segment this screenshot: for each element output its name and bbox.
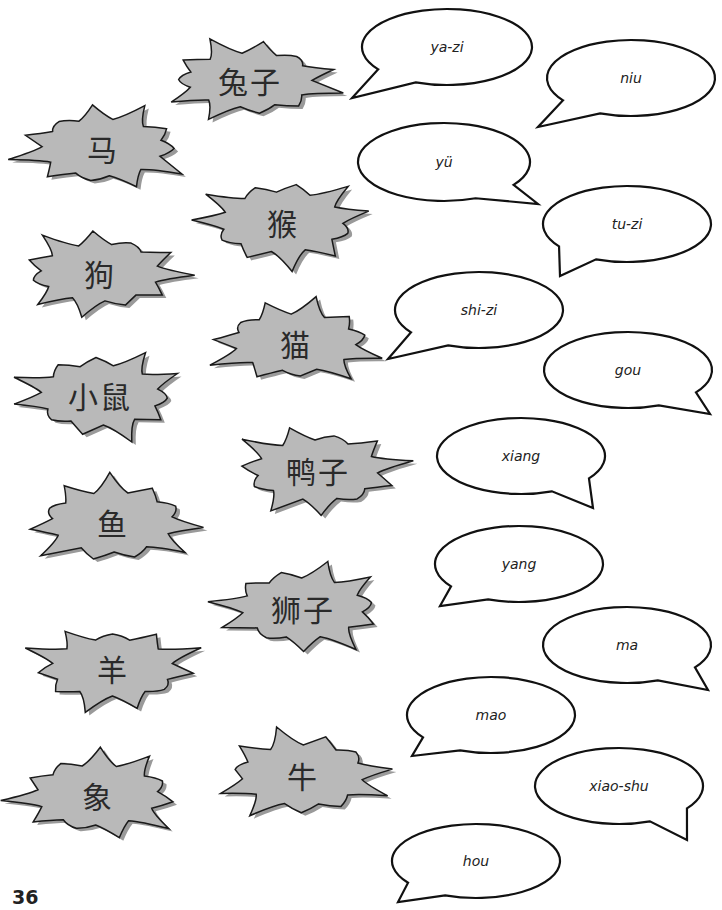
character-burst[interactable]: 狮子: [205, 558, 400, 658]
chinese-character: 猫: [198, 295, 393, 390]
chinese-character: 羊: [15, 620, 210, 715]
chinese-character: 马: [5, 100, 200, 195]
pinyin-label: gou: [544, 332, 712, 408]
pinyin-label: niu: [547, 40, 715, 116]
chinese-character: 牛: [205, 725, 400, 825]
page-number: 36: [12, 886, 38, 908]
chinese-character: 狗: [5, 225, 195, 320]
chinese-character: 鸭子: [220, 420, 415, 520]
character-burst[interactable]: 猫: [198, 295, 393, 390]
character-burst[interactable]: 羊: [15, 620, 210, 715]
pinyin-label: hou: [392, 824, 560, 898]
chinese-character: 小鼠: [5, 345, 195, 445]
pinyin-label: tu-zi: [543, 186, 711, 262]
character-burst[interactable]: 马: [5, 100, 200, 195]
speech-bubble[interactable]: hou: [372, 804, 580, 910]
pinyin-label: ya-zi: [362, 9, 532, 85]
chinese-character: 鱼: [15, 472, 210, 572]
character-burst[interactable]: 鸭子: [220, 420, 415, 520]
chinese-character: 象: [0, 745, 195, 845]
chinese-character: 狮子: [205, 558, 400, 658]
pinyin-label: xiang: [437, 418, 605, 494]
character-burst[interactable]: 象: [0, 745, 195, 845]
pinyin-label: yü: [358, 123, 530, 201]
character-burst[interactable]: 鱼: [15, 472, 210, 572]
character-burst[interactable]: 狗: [5, 225, 195, 320]
character-burst[interactable]: 牛: [205, 725, 400, 825]
character-burst[interactable]: 小鼠: [5, 345, 195, 445]
